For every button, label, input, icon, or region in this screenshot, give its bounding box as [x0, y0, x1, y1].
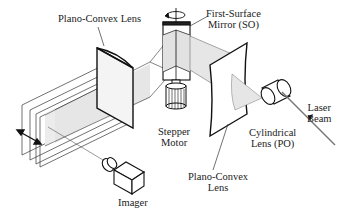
- label-laser-beam-line1: Laser: [307, 102, 332, 113]
- label-imager: Imager: [118, 197, 148, 208]
- label-plano-convex-lens-top: Plano-Convex Lens: [58, 13, 141, 24]
- translation-arrow-icon: [17, 130, 41, 144]
- label-stepper-motor-line1: Stepper: [158, 126, 190, 137]
- label-laser-beam: Laser Beam: [307, 102, 332, 124]
- label-stepper-motor-line2: Motor: [158, 137, 190, 148]
- label-first-surface-mirror-line1: First-Surface: [206, 8, 261, 19]
- label-plano-convex-lens-bottom-line2: Lens: [188, 182, 248, 193]
- stepper-motor: [166, 80, 186, 109]
- cylindrical-lens: [258, 77, 293, 107]
- label-cylindrical-lens: Cylindrical Lens (PO): [249, 127, 296, 149]
- rotation-arrow-icon: [165, 8, 185, 22]
- label-plano-convex-lens-bottom: Plano-Convex Lens: [188, 171, 248, 193]
- label-cylindrical-lens-line2: Lens (PO): [249, 138, 296, 149]
- optical-setup-diagram: Plano-Convex Lens First-Surface Mirror (…: [0, 0, 349, 218]
- diagram-graphic: [0, 0, 349, 218]
- first-surface-mirror: [163, 22, 190, 80]
- label-cylindrical-lens-line1: Cylindrical: [249, 127, 296, 138]
- label-laser-beam-line2: Beam: [307, 113, 332, 124]
- label-first-surface-mirror: First-Surface Mirror (SO): [206, 8, 261, 30]
- label-first-surface-mirror-line2: Mirror (SO): [206, 19, 261, 30]
- label-plano-convex-lens-bottom-line1: Plano-Convex: [188, 171, 248, 182]
- label-stepper-motor: Stepper Motor: [158, 126, 190, 148]
